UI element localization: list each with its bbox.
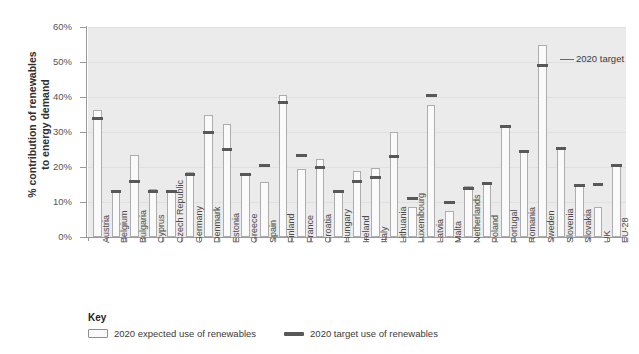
bar-target-marker — [203, 131, 214, 134]
y-tick — [80, 167, 86, 168]
x-tick-label: Italy — [379, 226, 389, 243]
x-tick-label: Croatia — [323, 214, 333, 243]
bar-target-marker — [444, 201, 455, 204]
bar-group — [260, 27, 269, 237]
bar-group — [112, 27, 121, 237]
x-tick-label: Cyprus — [156, 214, 166, 243]
bar-target-marker — [482, 182, 493, 185]
annotation-leader-line — [560, 59, 574, 60]
bar-group — [427, 27, 436, 237]
x-tick-label: Latvia — [435, 219, 445, 243]
bar-target-marker — [111, 190, 122, 193]
x-tick-label: Ireland — [361, 215, 371, 243]
bar-group — [279, 27, 288, 237]
x-tick-label: EU-28 — [620, 217, 630, 243]
bar-group — [334, 27, 343, 237]
x-tick-label: Bulgaria — [138, 210, 148, 243]
y-tick-label: 0% — [0, 231, 72, 242]
key-item-expected: 2020 expected use of renewables — [88, 328, 256, 339]
x-tick-label: Hungary — [342, 209, 352, 243]
bar-target-marker — [352, 180, 363, 183]
bar-target-marker — [500, 125, 511, 128]
x-tick-label: Estonia — [231, 213, 241, 243]
bar-target-marker — [537, 64, 548, 67]
bar-group — [149, 27, 158, 237]
bar-group — [445, 27, 454, 237]
y-tick-label: 20% — [0, 161, 72, 172]
y-tick — [80, 237, 86, 238]
y-tick — [80, 62, 86, 63]
y-tick-label: 50% — [0, 56, 72, 67]
x-tick-label: Denmark — [212, 206, 222, 243]
x-tick-label: Luxembourg — [416, 193, 426, 243]
x-tick-label: Portugal — [509, 209, 519, 243]
x-tick-label: Austria — [101, 215, 111, 243]
key-item-target: 2020 target use of renewables — [284, 328, 438, 339]
y-tick-label: 60% — [0, 21, 72, 32]
x-tick-label: Malta — [453, 221, 463, 243]
bar-group — [93, 27, 102, 237]
x-tick-label: Greece — [249, 213, 259, 243]
bar-target-marker — [463, 187, 474, 190]
bar-target-marker — [259, 164, 270, 167]
x-tick-label: UK — [602, 230, 612, 243]
bar-target-marker — [148, 190, 159, 193]
bar-target-marker — [611, 164, 622, 167]
x-tick-label: Slovakia — [583, 209, 593, 243]
x-tick-label: Czech Republic — [175, 180, 185, 243]
bar-target-marker — [278, 101, 289, 104]
y-tick — [80, 97, 86, 98]
bar-group — [353, 27, 362, 237]
key-title: Key — [88, 312, 460, 323]
x-tick-label: Lithuania — [398, 206, 408, 243]
bar-expected — [538, 45, 547, 238]
x-tick-label: Poland — [490, 215, 500, 243]
y-tick — [80, 202, 86, 203]
bar-target-marker — [333, 190, 344, 193]
y-tick — [80, 27, 86, 28]
x-axis-line — [86, 237, 626, 238]
x-tick-label: Netherlands — [472, 194, 482, 243]
renewables-chart: % contribution of renewables to energy d… — [0, 0, 639, 354]
key-label-expected: 2020 expected use of renewables — [114, 328, 256, 339]
bar-group — [483, 27, 492, 237]
x-tick-label: Slovenia — [565, 208, 575, 243]
bar-target-marker — [129, 180, 140, 183]
bar-target-marker — [185, 173, 196, 176]
bar-group — [223, 27, 232, 237]
annotation-2020-target: 2020 target — [576, 53, 624, 64]
y-tick — [80, 132, 86, 133]
x-tick — [88, 237, 89, 241]
x-tick-label: Belgium — [119, 210, 129, 243]
key-label-target: 2020 target use of renewables — [310, 328, 438, 339]
bar-target-marker — [222, 148, 233, 151]
bar-target-marker — [240, 173, 251, 176]
y-tick-label: 10% — [0, 196, 72, 207]
bar-target-marker — [519, 150, 530, 153]
bar-target-marker — [296, 154, 307, 157]
bar-target-marker — [315, 166, 326, 169]
bar-target-marker — [92, 117, 103, 120]
bar-target-marker — [593, 183, 604, 186]
y-tick-label: 40% — [0, 91, 72, 102]
bar-group — [520, 27, 529, 237]
y-axis-line — [86, 26, 87, 238]
dark-dash-swatch-icon — [284, 332, 304, 336]
bar-group — [316, 27, 325, 237]
bar-target-marker — [370, 176, 381, 179]
bar-expected — [427, 105, 436, 237]
x-tick-label: France — [305, 215, 315, 243]
bar-group — [130, 27, 139, 237]
bar-group — [501, 27, 510, 237]
bar-group — [297, 27, 306, 237]
hollow-bar-swatch-icon — [88, 329, 108, 338]
key-entries: 2020 expected use of renewables 2020 tar… — [88, 328, 460, 339]
bar-group — [538, 27, 547, 237]
x-tick-label: Spain — [268, 220, 278, 243]
bar-target-marker — [426, 94, 437, 97]
bar-group — [241, 27, 250, 237]
x-tick-label: Finland — [286, 213, 296, 243]
bar-group — [371, 27, 380, 237]
x-tick-label: Sweden — [546, 210, 556, 243]
bar-target-marker — [389, 155, 400, 158]
